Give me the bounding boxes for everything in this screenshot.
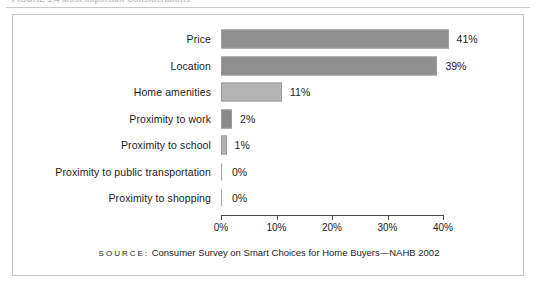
category-label: Location <box>171 60 212 72</box>
category-label: Price <box>187 33 211 45</box>
bar <box>221 136 227 155</box>
x-axis-tick-label: 0% <box>214 222 228 233</box>
chart-row: Proximity to work2% <box>13 107 525 131</box>
bar <box>221 56 437 75</box>
chart-row: Proximity to school1% <box>13 133 525 157</box>
bar <box>221 109 232 128</box>
bar <box>221 83 282 102</box>
x-axis-tick-label: 20% <box>322 222 342 233</box>
x-axis-tick-label: 10% <box>266 222 286 233</box>
chart-row: Proximity to public transportation0% <box>13 160 525 184</box>
value-label: 41% <box>457 33 478 45</box>
chart-row: Home amenities11% <box>13 80 525 104</box>
value-label: 1% <box>235 139 250 151</box>
source-label: SOURCE: <box>99 249 149 258</box>
x-axis-tick <box>443 215 444 220</box>
value-label: 39% <box>445 60 466 72</box>
bar <box>221 30 449 49</box>
chart-row: Price41% <box>13 27 525 51</box>
category-label: Home amenities <box>134 86 211 98</box>
category-label: Proximity to shopping <box>109 192 211 204</box>
category-label: Proximity to work <box>129 113 211 125</box>
caption-divider <box>6 7 530 8</box>
figure-frame: Price41%Location39%Home amenities11%Prox… <box>12 14 524 276</box>
bar-chart: Price41%Location39%Home amenities11%Prox… <box>13 15 525 277</box>
chart-row: Proximity to shopping0% <box>13 186 525 210</box>
value-label: 0% <box>232 166 247 178</box>
x-axis-tick-label: 40% <box>433 222 453 233</box>
category-label: Proximity to public transportation <box>55 166 211 178</box>
figure-caption: FIGURE 1.4 Most Important Considerations <box>12 0 512 4</box>
x-axis-tick <box>332 215 333 220</box>
x-axis-tick <box>277 215 278 220</box>
zero-bar-tick <box>221 163 222 180</box>
category-label: Proximity to school <box>121 139 211 151</box>
source-note: SOURCE: Consumer Survey on Smart Choices… <box>13 247 525 258</box>
value-label: 0% <box>232 192 247 204</box>
x-axis-tick <box>388 215 389 220</box>
x-axis-tick <box>221 215 222 220</box>
x-axis-tick-label: 30% <box>377 222 397 233</box>
value-label: 11% <box>290 86 310 98</box>
value-label: 2% <box>240 113 255 125</box>
zero-bar-tick <box>221 190 222 207</box>
source-text: Consumer Survey on Smart Choices for Hom… <box>149 247 439 258</box>
chart-row: Location39% <box>13 54 525 78</box>
